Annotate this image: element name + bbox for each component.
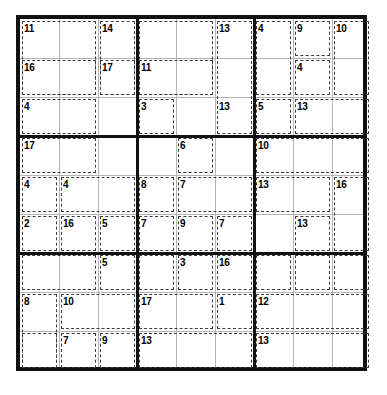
cell-r6c7[interactable] [254,214,293,253]
cell-r6c5[interactable] [176,214,215,253]
cell-r1c6[interactable] [215,19,254,58]
cell-r4c4[interactable] [137,136,176,175]
cell-r5c7[interactable] [254,175,293,214]
cell-r4c5[interactable] [176,136,215,175]
cell-r9c7[interactable] [254,331,293,370]
cell-r7c9[interactable] [332,253,371,292]
cell-r4c1[interactable] [20,136,59,175]
cell-r7c3[interactable] [98,253,137,292]
cell-r9c5[interactable] [176,331,215,370]
cell-r5c6[interactable] [215,175,254,214]
cell-r3c4[interactable] [137,97,176,136]
cell-r8c6[interactable] [215,292,254,331]
cell-r1c4[interactable] [137,19,176,58]
cell-r1c9[interactable] [332,19,371,58]
cell-r6c1[interactable] [20,214,59,253]
cell-r1c8[interactable] [293,19,332,58]
cell-r8c8[interactable] [293,292,332,331]
cell-r3c7[interactable] [254,97,293,136]
cell-r6c6[interactable] [215,214,254,253]
cell-r9c9[interactable] [332,331,371,370]
killer-sudoku-puzzle: 1114161741311313491045131744216568779710… [0,0,387,395]
cell-r4c7[interactable] [254,136,293,175]
cell-r3c6[interactable] [215,97,254,136]
cell-r2c6[interactable] [215,58,254,97]
cell-r8c7[interactable] [254,292,293,331]
cell-r6c3[interactable] [98,214,137,253]
cell-r5c2[interactable] [59,175,98,214]
cell-r3c8[interactable] [293,97,332,136]
cell-r2c2[interactable] [59,58,98,97]
cell-r4c9[interactable] [332,136,371,175]
cell-r9c2[interactable] [59,331,98,370]
cell-r8c5[interactable] [176,292,215,331]
cell-r8c3[interactable] [98,292,137,331]
cell-r6c4[interactable] [137,214,176,253]
cell-r7c1[interactable] [20,253,59,292]
cell-r5c1[interactable] [20,175,59,214]
cell-r8c4[interactable] [137,292,176,331]
cell-r4c8[interactable] [293,136,332,175]
cell-r6c2[interactable] [59,214,98,253]
cell-r1c1[interactable] [20,19,59,58]
cell-r3c5[interactable] [176,97,215,136]
cell-r3c9[interactable] [332,97,371,136]
cell-r2c1[interactable] [20,58,59,97]
cell-layer[interactable] [20,19,363,367]
cell-r2c5[interactable] [176,58,215,97]
cell-r2c8[interactable] [293,58,332,97]
cell-r9c8[interactable] [293,331,332,370]
cell-r5c3[interactable] [98,175,137,214]
cell-r3c3[interactable] [98,97,137,136]
cell-r7c7[interactable] [254,253,293,292]
cell-r8c9[interactable] [332,292,371,331]
cell-r2c3[interactable] [98,58,137,97]
sudoku-grid[interactable]: 1114161741311313491045131744216568779710… [16,15,367,371]
cell-r5c9[interactable] [332,175,371,214]
cell-r1c2[interactable] [59,19,98,58]
cell-r2c4[interactable] [137,58,176,97]
cell-r9c3[interactable] [98,331,137,370]
cell-r1c7[interactable] [254,19,293,58]
cell-r8c2[interactable] [59,292,98,331]
cell-r5c4[interactable] [137,175,176,214]
cell-r7c6[interactable] [215,253,254,292]
cell-r9c4[interactable] [137,331,176,370]
cell-r6c9[interactable] [332,214,371,253]
cell-r9c6[interactable] [215,331,254,370]
cell-r2c7[interactable] [254,58,293,97]
cell-r7c2[interactable] [59,253,98,292]
cell-r9c1[interactable] [20,331,59,370]
cell-r5c5[interactable] [176,175,215,214]
cell-r3c2[interactable] [59,97,98,136]
cell-r7c8[interactable] [293,253,332,292]
cell-r8c1[interactable] [20,292,59,331]
cell-r6c8[interactable] [293,214,332,253]
cell-r7c5[interactable] [176,253,215,292]
cell-r1c5[interactable] [176,19,215,58]
cell-r7c4[interactable] [137,253,176,292]
cell-r4c2[interactable] [59,136,98,175]
cell-r4c3[interactable] [98,136,137,175]
cell-r1c3[interactable] [98,19,137,58]
cell-r5c8[interactable] [293,175,332,214]
cell-r2c9[interactable] [332,58,371,97]
cell-r3c1[interactable] [20,97,59,136]
cell-r4c6[interactable] [215,136,254,175]
